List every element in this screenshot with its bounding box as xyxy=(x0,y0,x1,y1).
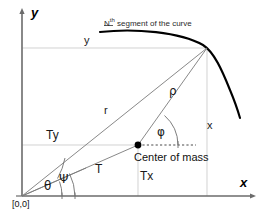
angle-theta-label: θ xyxy=(44,180,51,192)
angle-psi-label: Ψ xyxy=(59,173,68,185)
x-axis-label: x xyxy=(240,176,247,189)
origin-label: [0,0] xyxy=(12,200,30,209)
radius-r-label: r xyxy=(104,105,108,116)
line-r xyxy=(22,48,207,196)
curve-caption-text: segment of the curve xyxy=(115,19,192,28)
diagram-vector-graphics xyxy=(0,0,262,219)
center-of-mass-label: Center of mass xyxy=(134,152,209,163)
tension-Ty-label: Ty xyxy=(46,129,59,141)
x-axis-arrow xyxy=(250,193,256,198)
curve-path xyxy=(100,31,240,118)
line-theta-ray xyxy=(22,168,86,196)
angle-phi-label: φ xyxy=(157,126,165,138)
diagram-canvas: y x [0,0] Nth segment of the curve y x r… xyxy=(0,0,262,219)
tension-T-label: T xyxy=(95,163,102,175)
arc-phi xyxy=(165,116,179,146)
curve-caption: Nth segment of the curve xyxy=(104,17,192,28)
x-coordinate-label: x xyxy=(207,120,213,131)
arc-psi xyxy=(70,174,76,197)
y-coordinate-label: y xyxy=(84,35,90,46)
y-axis-label: y xyxy=(31,6,38,19)
y-axis-arrow xyxy=(19,8,24,14)
tension-Tx-label: Tx xyxy=(140,170,153,182)
center-of-mass-point xyxy=(135,142,142,149)
radius-rho-label: ρ xyxy=(169,85,177,97)
vector-lines xyxy=(22,48,207,196)
